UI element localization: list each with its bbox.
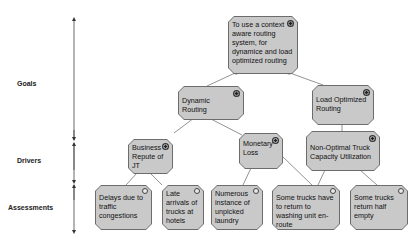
goal-text: To use a context aware routing system, f… xyxy=(232,20,292,65)
driver-node-business-repute[interactable]: Business Repute of JT xyxy=(128,139,173,174)
goal-node-dynamic-routing[interactable]: Dynamic Routing xyxy=(178,86,244,120)
goal-text: Load Optimized Routing xyxy=(316,95,366,113)
gear-icon xyxy=(272,137,279,144)
goal-node-load-optimized-routing[interactable]: Load Optimized Routing xyxy=(312,85,374,125)
level-label-goals: Goals xyxy=(17,80,36,87)
assessment-node-late-arrivals[interactable]: Late arrivals of trucks at hotels xyxy=(162,185,204,230)
assessment-node-return-half-empty[interactable]: Some trucks return half empty xyxy=(350,185,408,230)
goal-node-root[interactable]: To use a context aware routing system, f… xyxy=(228,16,298,74)
assessment-icon xyxy=(330,188,336,194)
driver-node-monetary-loss[interactable]: Monetary Loss xyxy=(239,133,283,169)
assessment-icon xyxy=(142,188,148,194)
driver-node-non-optimal-capacity[interactable]: Non-Optimal Truck Capacity Utilization xyxy=(306,131,380,171)
driver-text: Monetary Loss xyxy=(243,139,273,157)
driver-text: Business Repute of JT xyxy=(132,143,163,170)
assessment-icon xyxy=(194,188,200,194)
assessment-icon xyxy=(253,188,259,194)
assessment-text: Some trucks return half empty xyxy=(354,193,394,220)
level-label-drivers: Drivers xyxy=(17,157,41,164)
assessment-node-return-washing[interactable]: Some trucks have to return to washing un… xyxy=(272,185,340,230)
gear-icon xyxy=(162,143,169,150)
goal-icon xyxy=(287,20,294,27)
driver-text: Non-Optimal Truck Capacity Utilization xyxy=(310,143,371,161)
assessment-text: Late arrivals of trucks at hotels xyxy=(166,189,197,225)
assessment-node-unpicked-laundry[interactable]: Numerous instance of unpicked laundry xyxy=(211,185,263,230)
assessment-text: Delays due to traffic congestions xyxy=(99,193,143,220)
goal-icon xyxy=(233,90,240,97)
assessment-icon xyxy=(398,188,404,194)
goal-icon xyxy=(363,89,370,96)
goal-text: Dynamic Routing xyxy=(182,96,210,114)
level-label-assessments: Assessments xyxy=(8,204,53,211)
assessment-text: Some trucks have to return to washing un… xyxy=(276,193,334,229)
assessment-node-delays-traffic[interactable]: Delays due to traffic congestions xyxy=(95,185,152,230)
assessment-text: Numerous instance of unpicked laundry xyxy=(215,189,250,225)
gear-icon xyxy=(369,135,376,142)
